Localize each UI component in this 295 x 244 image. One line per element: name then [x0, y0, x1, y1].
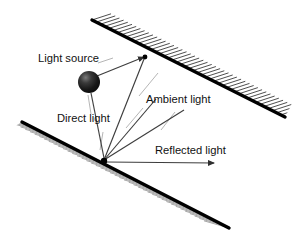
- label-reflected-light: Reflected light: [155, 144, 227, 156]
- light-source-sphere: [78, 71, 100, 93]
- wall-hit-point: [143, 55, 148, 60]
- label-light-source: Light source: [38, 52, 99, 64]
- surface-hit-point: [101, 158, 107, 164]
- label-ambient-light: Ambient light: [146, 93, 212, 105]
- label-direct-light: Direct light: [57, 112, 111, 124]
- light-diagram: Light source Direct light Ambient light …: [0, 0, 295, 244]
- diagram-canvas: Light source Direct light Ambient light …: [0, 0, 295, 244]
